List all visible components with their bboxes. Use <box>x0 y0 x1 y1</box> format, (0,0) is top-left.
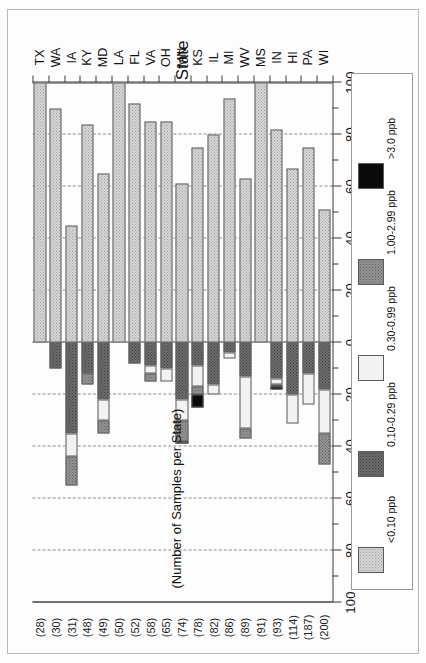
legend-swatch <box>358 451 384 477</box>
bar-row <box>253 82 269 602</box>
sample-count-label: (50) <box>111 604 127 650</box>
legend-swatch <box>358 259 384 285</box>
legend-label: >3.0 ppb <box>378 63 404 159</box>
bar-segment <box>270 386 282 389</box>
bar-segment <box>33 82 45 342</box>
legend-item: <0.10 ppb <box>352 481 414 577</box>
axis-tick <box>332 523 338 524</box>
bar-below-lod <box>81 124 93 342</box>
bar-segment <box>128 103 140 342</box>
sample-count-label: (78) <box>190 604 206 650</box>
bar-above-lod <box>128 342 140 363</box>
bar-segment <box>65 225 77 342</box>
axis-tick <box>332 315 338 316</box>
axis-tick <box>332 367 338 368</box>
bar-segment <box>270 342 282 378</box>
axis-tick <box>332 445 341 446</box>
bar-below-lod <box>175 183 187 342</box>
axis-tick <box>332 211 338 212</box>
bar-segment <box>318 433 330 464</box>
value-axis <box>332 82 342 602</box>
legend-item: 0.30-0.99 ppb <box>352 289 414 385</box>
bar-segment <box>144 121 156 342</box>
bar-row <box>221 82 237 602</box>
legend-item: 1.00-2.99 ppb <box>352 193 414 289</box>
sample-count-label: (30) <box>48 604 64 650</box>
bar-segment <box>144 373 156 381</box>
bar-segment <box>286 168 298 342</box>
axis-tick <box>332 107 338 108</box>
axis-tick <box>332 497 341 498</box>
bar-above-lod <box>97 342 109 433</box>
bar-segment <box>128 342 140 363</box>
bar-below-lod <box>286 168 298 342</box>
axis-tick <box>332 393 341 394</box>
bar-row <box>32 82 48 602</box>
sample-count-label: (187) <box>300 604 316 650</box>
bar-row <box>237 82 253 602</box>
axis-tick <box>332 419 338 420</box>
bar-segment <box>160 368 172 381</box>
bar-below-lod <box>254 82 266 342</box>
bar-segment <box>49 108 61 342</box>
bar-segment <box>191 365 203 386</box>
legend-swatch <box>358 547 384 573</box>
legend: <0.10 ppb0.10-0.29 ppb0.30-0.99 ppb1.00-… <box>351 73 413 590</box>
axis-tick <box>332 471 338 472</box>
sample-count-label: (48) <box>79 604 95 650</box>
bar-segment <box>81 342 93 373</box>
bar-above-lod <box>239 342 251 438</box>
bar-segment <box>191 386 203 394</box>
bar-segment <box>239 376 251 428</box>
bar-below-lod <box>302 147 314 342</box>
bar-segment <box>318 209 330 342</box>
bar-row <box>285 82 301 602</box>
bar-row <box>64 82 80 602</box>
bar-above-lod <box>65 342 77 485</box>
sample-count-label: (93) <box>269 604 285 650</box>
axis-tick <box>332 133 341 134</box>
bar-row <box>95 82 111 602</box>
figure-page: 10080604020020406080100 WIPAHIINMSWVMIIL… <box>0 0 426 663</box>
sample-count-label: (114) <box>285 604 301 650</box>
bar-segment <box>207 134 219 342</box>
bar-above-lod <box>318 342 330 464</box>
bar-above-lod <box>286 342 298 423</box>
bar-above-lod <box>144 342 156 381</box>
axis-tick <box>332 263 338 264</box>
bar-segment <box>239 342 251 376</box>
bar-above-lod <box>191 342 203 407</box>
bar-segment <box>318 389 330 433</box>
bar-below-lod <box>223 98 235 342</box>
legend-item: 0.10-0.29 ppb <box>352 385 414 481</box>
bar-segment <box>302 147 314 342</box>
bar-below-lod <box>270 129 282 342</box>
bar-below-lod <box>239 178 251 342</box>
bar-segment <box>191 147 203 342</box>
bar-above-lod <box>207 342 219 394</box>
bar-segment <box>97 399 109 420</box>
bar-segment <box>270 129 282 342</box>
sample-count-label: (86) <box>221 604 237 650</box>
bar-segment <box>254 82 266 342</box>
legend-swatch <box>358 355 384 381</box>
bar-below-lod <box>207 134 219 342</box>
bar-row <box>143 82 159 602</box>
sample-count-label: (200) <box>316 604 332 650</box>
bar-below-lod <box>112 82 124 342</box>
bar-segment <box>65 456 77 485</box>
bar-above-lod <box>223 342 235 358</box>
bar-segment <box>175 183 187 342</box>
bar-above-lod <box>160 342 172 381</box>
sample-count-label: (65) <box>158 604 174 650</box>
bar-row <box>127 82 143 602</box>
bar-segment <box>81 373 93 383</box>
sample-count-label: (74) <box>174 604 190 650</box>
bar-above-lod <box>81 342 93 384</box>
axis-tick <box>332 549 341 550</box>
sample-count-label: (52) <box>127 604 143 650</box>
bar-segment <box>97 342 109 399</box>
axis-tick <box>332 341 341 342</box>
bar-row <box>269 82 285 602</box>
bar-segment <box>239 178 251 342</box>
